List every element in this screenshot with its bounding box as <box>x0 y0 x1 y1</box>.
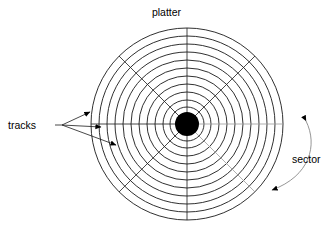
sector-spoke-diagonal-upper-left <box>119 56 187 124</box>
platter-label: platter <box>0 6 333 18</box>
sector-spoke-diagonal-lower-right <box>187 124 255 192</box>
sector-spoke-diagonal-lower-left <box>119 124 187 192</box>
tracks-leader-line-2 <box>62 125 101 127</box>
spindle-hub <box>175 112 199 136</box>
tracks-label: tracks <box>8 119 36 131</box>
tracks-label-text: tracks <box>8 119 36 131</box>
sector-spoke-diagonal-upper-right <box>187 56 255 124</box>
tracks-leader-line-1 <box>62 112 90 125</box>
sector-label-text: sector <box>292 153 321 165</box>
disk-diagram-canvas <box>0 0 333 229</box>
disk-platter-diagram: platter tracks sector <box>0 0 333 229</box>
platter-label-text: platter <box>152 6 181 18</box>
sector-label: sector <box>292 153 321 165</box>
